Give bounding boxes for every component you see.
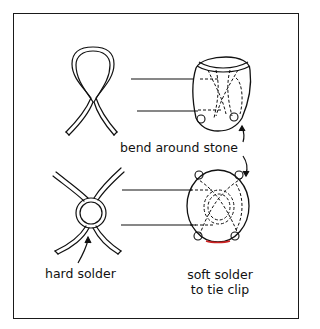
label-hard-solder: hard solder [45,266,116,281]
label-soft-solder-line1: soft solder [180,267,260,282]
label-bend-around-stone: bend around stone [120,140,238,155]
loop-wire-figure [66,47,117,135]
label-soft-solder-line2: to tie clip [180,282,260,297]
arrow-up-icon [239,126,245,142]
arrow-hard-solder-icon [78,237,91,263]
label-soft-solder: soft solder to tie clip [180,267,260,297]
tapered-stone-figure [193,57,251,131]
arrow-down-icon [243,156,249,176]
oval-stone-figure [187,170,249,243]
